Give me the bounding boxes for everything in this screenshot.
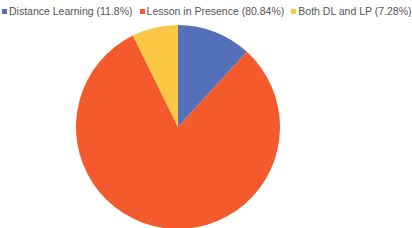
pie-slices — [76, 25, 280, 228]
